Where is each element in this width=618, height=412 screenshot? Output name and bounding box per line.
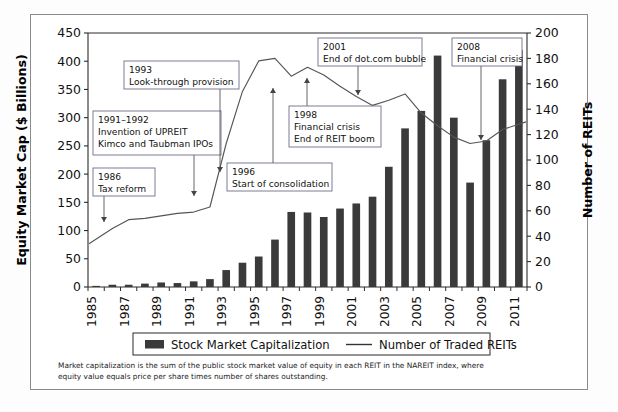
annotation-arrowhead [304,78,310,83]
y-right-tick-label: 0 [535,279,543,294]
bar [109,285,117,287]
annotation-arrowhead [191,191,197,196]
x-tick-label: 2007 [443,296,457,327]
y-left-tick-label: 0 [73,279,81,294]
annotation-text-line: End of REIT boom [294,134,375,144]
bar [141,284,149,287]
ann-2001: 2001End of dot.com bubble [318,38,427,95]
reit-chart: 0501001502002503003504004500204060801001… [0,0,618,412]
annotation-text-line: 1996 [232,167,255,177]
annotation-arrowhead [270,88,276,93]
y-left-tick-label: 450 [57,25,81,40]
annotation-text-line: Financial crisis [294,122,360,132]
bar [157,282,165,287]
y-axis-right-title: Number of REITs [580,102,595,219]
annotation-text-line: Start of consolidation [232,179,329,189]
annotation-text-line: 2001 [323,42,346,52]
bar [92,286,100,287]
bar [174,283,182,287]
x-tick-label: 2005 [410,296,424,327]
y-right-tick-label: 120 [535,127,559,142]
x-tick-label: 1989 [150,296,164,327]
annotation-text-line: Invention of UPREIT [98,127,188,137]
y-right-tick-label: 80 [535,178,551,193]
y-left-tick-label: 200 [57,167,81,182]
ann-2008: 2008Financial crisis [452,38,523,140]
bar [352,203,360,287]
legend-bar-swatch [145,340,164,349]
x-tick-label: 2001 [345,296,359,327]
bar [125,285,133,287]
x-tick-label: 2003 [378,296,392,327]
bar [239,263,247,287]
bar [271,240,279,287]
x-tick-label: 1995 [248,296,262,327]
annotation-text-line: Look-through provision [129,77,234,87]
footnote-line-1: Market capitalization is the sum of the … [58,360,558,371]
y-left-tick-label: 300 [57,110,81,125]
y-left-tick-label: 100 [57,223,81,238]
bar [385,167,393,287]
bar [417,111,425,287]
bar [255,257,263,287]
y-left-tick-label: 400 [57,54,81,69]
legend-line-label: Number of Traded REITs [379,338,517,352]
y-right-tick-label: 180 [535,51,559,66]
annotation-text-line: Financial crisis [457,54,523,64]
x-tick-label: 1999 [313,296,327,327]
bar [287,212,295,287]
bar [336,209,344,287]
annotation-text-line: 1991–1992 [98,115,149,125]
y-axis-left-title: Equity Market Cap ($ Billions) [14,54,29,266]
annotation-text-line: 1993 [129,65,152,75]
bar [304,212,312,287]
ann-1998: 1998Financial crisisEnd of REIT boom [289,78,381,147]
x-tick-label: 1991 [183,296,197,327]
y-left-tick-label: 250 [57,138,81,153]
annotation-arrowhead [217,167,223,172]
footnote: Market capitalization is the sum of the … [58,360,558,383]
annotation-text-line: Tax reform [97,184,146,194]
x-tick-label: 2011 [508,296,522,327]
bar [190,281,198,287]
y-left-tick-label: 150 [57,195,81,210]
y-right-tick-label: 40 [535,229,551,244]
bar [206,279,214,287]
bar [434,56,442,287]
annotation-arrowhead [101,217,107,222]
bar [369,197,377,287]
footnote-line-2: equity value equals price per share time… [58,371,558,382]
annotation-arrowhead [478,135,484,140]
annotation-text-line: 1986 [98,172,121,182]
bar [499,79,507,287]
y-right-tick-label: 160 [535,76,559,91]
bar [401,128,409,287]
ann-1986: 1986Tax reform [93,168,155,222]
bar [450,118,458,287]
annotation-text-line: Kimco and Taubman IPOs [98,139,213,149]
bar [222,270,230,287]
y-right-tick-label: 140 [535,102,559,117]
x-tick-label: 1997 [280,296,294,327]
bar [483,140,491,287]
y-right-tick-label: 60 [535,203,551,218]
x-tick-label: 1993 [215,296,229,327]
y-right-tick-label: 20 [535,254,551,269]
bar [515,50,523,287]
legend: Stock Market CapitalizationNumber of Tra… [133,333,517,355]
annotation-arrowhead [355,90,361,95]
annotation-text-line: 1998 [294,110,317,120]
y-left-tick-label: 350 [57,82,81,97]
x-tick-label: 1985 [85,296,99,327]
annotation-text-line: 2008 [457,42,480,52]
y-right-tick-label: 200 [535,25,559,40]
bar [466,183,474,287]
annotation-text-line: End of dot.com bubble [323,54,427,64]
y-left-tick-label: 50 [65,251,81,266]
figure-container: 0501001502002503003504004500204060801001… [0,0,618,412]
x-tick-label: 2009 [475,296,489,327]
legend-bar-label: Stock Market Capitalization [171,338,330,352]
y-right-tick-label: 100 [535,152,559,167]
x-tick-label: 1987 [118,296,132,327]
bar [320,217,328,287]
